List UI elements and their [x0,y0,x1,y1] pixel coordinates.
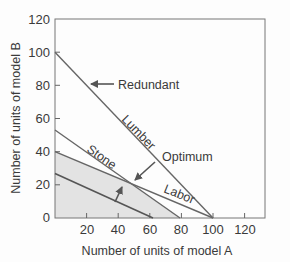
svg-text:80: 80 [174,222,188,237]
svg-text:40: 40 [111,222,125,237]
optimum-label: Optimum [162,150,213,164]
redundant-label: Redundant [118,78,180,92]
svg-text:60: 60 [143,222,157,237]
svg-text:0: 0 [43,210,50,225]
svg-text:20: 20 [80,222,94,237]
y-axis-title: Number of units of model B [9,42,23,193]
svg-text:120: 120 [28,12,50,27]
y-tick-labels: 0 20 40 60 80 100 120 [28,12,50,225]
svg-text:80: 80 [36,78,50,93]
svg-text:100: 100 [202,222,224,237]
x-tick-labels: 20 40 60 80 100 120 [80,222,256,237]
svg-text:20: 20 [36,177,50,192]
lumber-label: Lumber [119,112,159,152]
chart: 0 20 40 60 80 100 120 20 40 60 80 100 12… [0,0,290,262]
x-axis-title: Number of units of model A [82,244,233,258]
svg-text:40: 40 [36,144,50,159]
svg-text:100: 100 [28,45,50,60]
optimum-arrow [135,162,155,180]
svg-text:60: 60 [36,111,50,126]
svg-text:120: 120 [234,222,256,237]
labor-label: Labor [162,182,197,207]
